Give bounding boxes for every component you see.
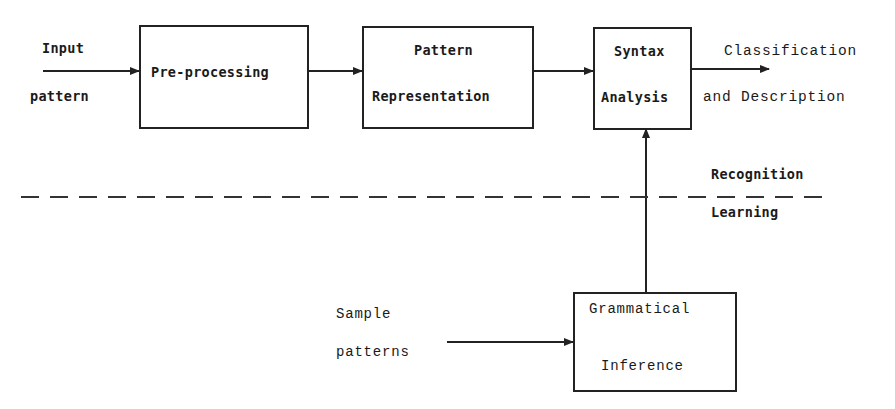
output-label-line2: and Description — [703, 89, 846, 105]
block-preprocessing-label: Pre-processing — [151, 64, 269, 80]
block-pattern-representation-line1: Pattern — [414, 42, 473, 58]
block-syntax-analysis-line1: Syntax — [614, 43, 665, 59]
learning-label: Learning — [711, 204, 778, 220]
input-label-line2: pattern — [30, 88, 89, 104]
block-syntax-analysis-line2: Analysis — [601, 89, 668, 105]
sample-label-line2: patterns — [336, 344, 410, 360]
block-pattern-representation-line2: Representation — [372, 88, 490, 104]
recognition-label: Recognition — [711, 166, 804, 182]
block-grammatical-inference-line1: Grammatical — [589, 301, 690, 317]
block-grammatical-inference-line2: Inference — [601, 358, 684, 374]
output-label-line1: Classification — [724, 43, 857, 59]
diagram-canvas: Input pattern Pre-processing Pattern Rep… — [0, 0, 895, 409]
input-label-line1: Input — [42, 40, 84, 56]
sample-label-line1: Sample — [336, 306, 391, 322]
